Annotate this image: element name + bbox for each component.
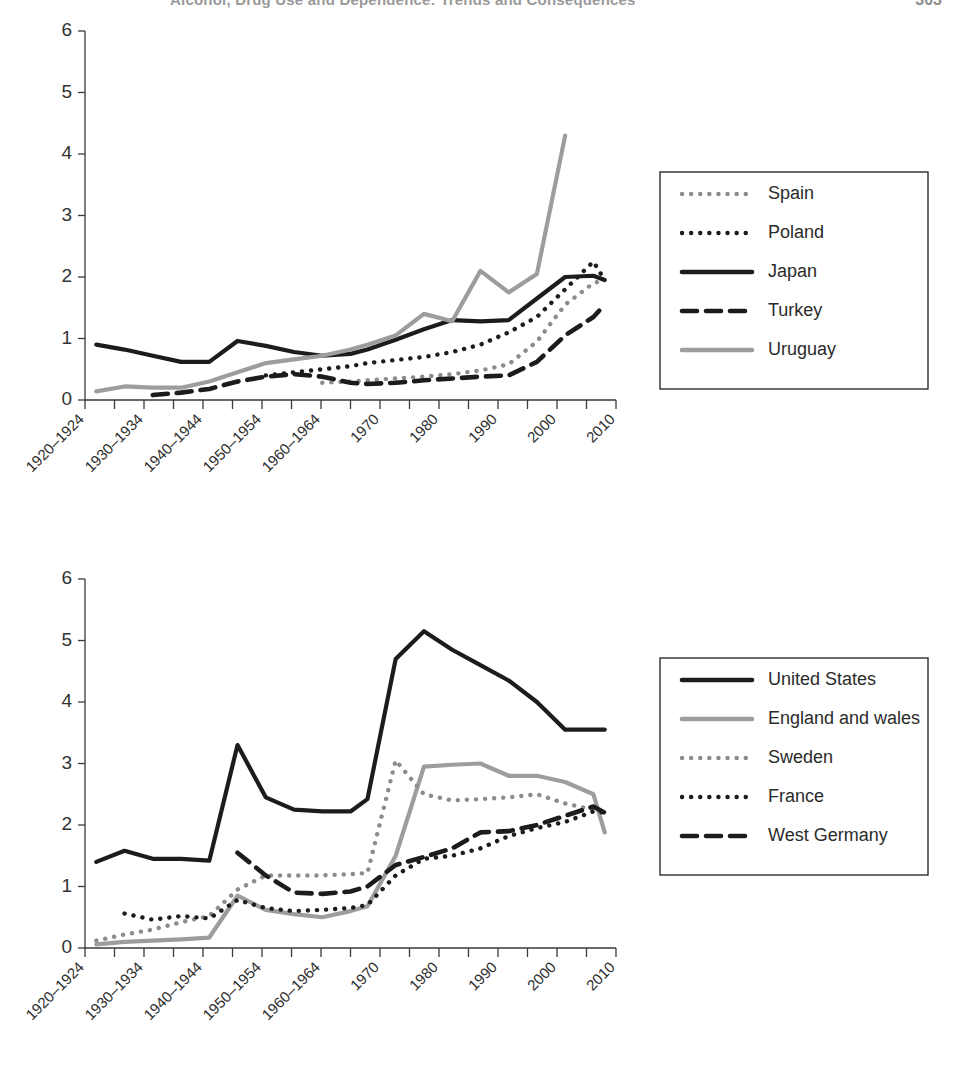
x-tick-label: 1980	[406, 958, 442, 994]
y-tick-label: 0	[61, 388, 72, 409]
x-tick-label: 1990	[465, 410, 501, 446]
x-tick-label: 2010	[583, 958, 619, 994]
axis-lines	[85, 31, 616, 400]
y-tick-label: 2	[61, 813, 72, 834]
x-tick-label: 1970	[347, 410, 383, 446]
series-line-west-germany	[238, 807, 605, 894]
page-number: 303	[915, 0, 942, 9]
x-tick-label: 1950–1954	[199, 958, 264, 1023]
legend-label-uruguay: Uruguay	[768, 339, 836, 359]
y-tick-label: 3	[61, 204, 72, 225]
page: Alcohol, Drug Use and Dependence: Trends…	[0, 0, 960, 1068]
legend-label-japan: Japan	[768, 261, 817, 281]
y-tick-label: 4	[61, 690, 72, 711]
chart-top-svg: 01234561920–19241930–19341940–19441950–1…	[0, 14, 960, 534]
y-tick-label: 1	[61, 875, 72, 896]
legend-label-poland: Poland	[768, 222, 824, 242]
x-tick-label: 1920–1924	[22, 410, 87, 475]
y-tick-label: 6	[61, 19, 72, 40]
chart-top-figure: 01234561920–19241930–19341940–19441950–1…	[0, 14, 960, 534]
legend-label-france: France	[768, 786, 824, 806]
y-tick-label: 4	[61, 142, 72, 163]
x-tick-label: 2000	[524, 410, 560, 446]
y-tick-label: 0	[61, 936, 72, 957]
x-tick-label: 1990	[465, 958, 501, 994]
x-tick-label: 1960–1964	[258, 410, 323, 475]
series-line-england-and-wales	[96, 764, 604, 945]
running-title: Alcohol, Drug Use and Dependence: Trends…	[170, 0, 636, 8]
y-tick-label: 2	[61, 265, 72, 286]
chart-bottom-figure: 01234561920–19241930–19341940–19441950–1…	[0, 562, 960, 1068]
x-tick-label: 2010	[583, 410, 619, 446]
x-tick-label: 1940–1944	[140, 958, 205, 1023]
legend-label-united-states: United States	[768, 669, 876, 689]
x-tick-label: 1930–1934	[81, 958, 146, 1023]
series-line-sweden	[96, 760, 604, 940]
series-line-uruguay	[96, 136, 565, 392]
legend-label-sweden: Sweden	[768, 747, 833, 767]
x-tick-label: 1940–1944	[140, 410, 205, 475]
x-tick-label: 1950–1954	[199, 410, 264, 475]
x-tick-label: 1920–1924	[22, 958, 87, 1023]
x-tick-label: 2000	[524, 958, 560, 994]
y-tick-label: 5	[61, 629, 72, 650]
x-tick-label: 1970	[347, 958, 383, 994]
legend-label-spain: Spain	[768, 183, 814, 203]
legend-label-england-and-wales: England and wales	[768, 708, 920, 728]
y-tick-label: 6	[61, 567, 72, 588]
x-tick-label: 1930–1934	[81, 410, 146, 475]
series-line-turkey	[153, 305, 605, 395]
series-line-spain	[322, 280, 604, 383]
y-tick-label: 1	[61, 327, 72, 348]
legend-label-west-germany: West Germany	[768, 825, 888, 845]
y-tick-label: 5	[61, 81, 72, 102]
legend-label-turkey: Turkey	[768, 300, 822, 320]
chart-bottom-svg: 01234561920–19241930–19341940–19441950–1…	[0, 562, 960, 1068]
x-tick-label: 1980	[406, 410, 442, 446]
running-header: Alcohol, Drug Use and Dependence: Trends…	[0, 0, 960, 12]
y-tick-label: 3	[61, 752, 72, 773]
x-tick-label: 1960–1964	[258, 958, 323, 1023]
